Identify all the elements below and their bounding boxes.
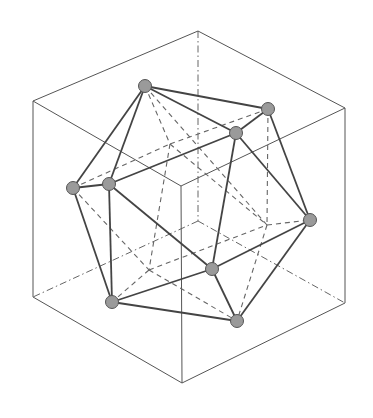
edge-G-H — [112, 269, 212, 302]
hidden-edge-A-L — [145, 86, 267, 225]
icosahedron-in-cube-diagram — [0, 0, 373, 418]
vertex-D — [67, 182, 80, 195]
vertex-E — [103, 178, 116, 191]
cube-edge-top-right_top — [198, 31, 345, 108]
cube-hidden-edge-back_bottom-left_bottom — [33, 221, 198, 297]
vertex-A — [139, 80, 152, 93]
edge-A-D — [73, 86, 145, 188]
edge-C-E — [109, 133, 236, 184]
vertex-F — [304, 214, 317, 227]
edge-F-I — [237, 220, 310, 321]
icosahedron-hidden-edges — [73, 86, 310, 321]
cube-edge-left_top-front_top — [33, 101, 181, 186]
edge-C-G — [212, 133, 236, 269]
icosahedron-visible-edges — [73, 86, 310, 321]
hidden-edge-A-J — [145, 86, 170, 144]
hidden-edge-K-H — [112, 270, 149, 302]
vertex-I — [231, 315, 244, 328]
edge-E-G — [109, 184, 212, 269]
icosahedron-vertices — [67, 80, 317, 328]
vertex-B — [262, 103, 275, 116]
edge-D-H — [73, 188, 112, 302]
edge-B-F — [268, 109, 310, 220]
vertex-H — [106, 296, 119, 309]
cube-hidden-edge-back_bottom-right_bottom — [198, 221, 345, 303]
edge-E-H — [109, 184, 112, 302]
hidden-edge-B-J — [170, 109, 268, 144]
hidden-edge-L-I — [237, 225, 267, 321]
edge-C-F — [236, 133, 310, 220]
edge-A-C — [145, 86, 236, 133]
edge-G-I — [212, 269, 237, 321]
vertex-C — [230, 127, 243, 140]
edge-A-E — [109, 86, 145, 184]
edge-A-B — [145, 86, 268, 109]
cube-edge-right_bottom-front_bottom — [182, 303, 345, 383]
cube-edge-front_top-front_bottom — [181, 186, 182, 383]
edge-H-I — [112, 302, 237, 321]
hidden-edge-B-L — [267, 109, 268, 225]
cube-hidden-edges — [33, 31, 345, 303]
vertex-G — [206, 263, 219, 276]
